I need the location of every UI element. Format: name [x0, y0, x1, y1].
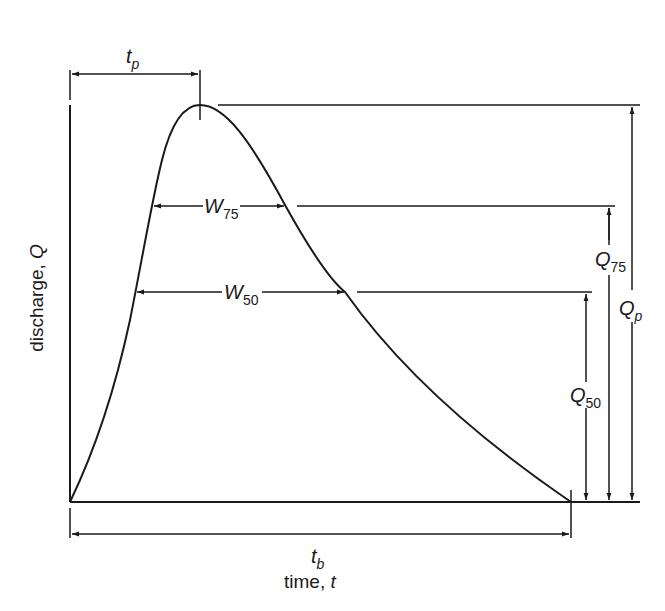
w50-label: W50	[224, 282, 258, 302]
x-axis-label: time, t	[284, 572, 336, 591]
tb-label: tb	[311, 546, 324, 566]
tp-label: tp	[126, 46, 139, 66]
hydrograph-curve	[70, 105, 571, 502]
q50-label: Q50	[570, 385, 601, 405]
qp-label: Qp	[619, 298, 642, 318]
y-axis-label: discharge, Q	[26, 244, 48, 352]
q75-label: Q75	[595, 249, 626, 269]
w75-label: W75	[204, 196, 238, 216]
hydrograph-diagram	[0, 0, 665, 611]
